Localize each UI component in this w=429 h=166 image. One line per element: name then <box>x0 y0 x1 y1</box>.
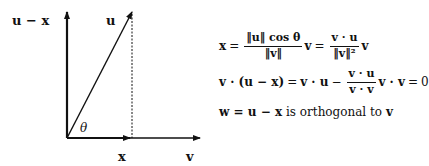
eq2-frac-numerator: v · u <box>347 68 377 82</box>
u-vector <box>67 12 132 138</box>
eq2-frac-denominator: v · v <box>347 83 375 96</box>
eq2-term1: v · u <box>300 75 328 89</box>
eq1-frac1-numerator: ‖u‖ cos θ <box>244 32 302 46</box>
eq1-frac2-numerator: v · u <box>330 32 360 46</box>
projection-diagram: u − x u θ x v <box>0 0 214 166</box>
eq1-frac2-denominator: ‖v‖² <box>331 47 357 60</box>
eq1-fraction-1: ‖u‖ cos θ ‖v‖ <box>244 32 302 59</box>
eq1-v2: v <box>361 39 368 53</box>
statement-orthogonal: w = u − x is orthogonal to v <box>219 102 393 122</box>
eq2-equals: = <box>287 75 297 89</box>
eq1-lhs: x <box>219 39 226 53</box>
eq1-fraction-2: v · u ‖v‖² <box>330 32 360 59</box>
eq2-rhs: 0 <box>421 75 429 89</box>
eq2-fraction: v · u v · v <box>347 68 377 95</box>
label-u: u <box>106 14 115 27</box>
equation-projection: x = ‖u‖ cos θ ‖v‖ v = v · u ‖v‖² v <box>219 30 368 62</box>
eq2-lhs: v · (u − x) <box>219 75 284 89</box>
eq3-lhs: w = u − x <box>219 105 282 119</box>
eq1-equals: = <box>229 39 239 53</box>
eq2-term2: v · v <box>378 75 404 89</box>
eq3-text: is orthogonal to <box>286 105 382 119</box>
eq2-equals-2: = <box>408 75 418 89</box>
eq1-v1: v <box>304 39 311 53</box>
eq2-minus: − <box>331 75 341 89</box>
eq3-rhs: v <box>386 105 393 119</box>
eq1-equals-2: = <box>314 39 324 53</box>
label-v: v <box>186 150 194 163</box>
eq1-frac1-denominator: ‖v‖ <box>263 47 284 60</box>
equation-orthogonality: v · (u − x) = v · u − v · u v · v v · v … <box>219 66 429 98</box>
label-u-minus-x: u − x <box>12 14 49 27</box>
label-theta: θ <box>80 122 87 134</box>
label-x: x <box>118 150 126 163</box>
